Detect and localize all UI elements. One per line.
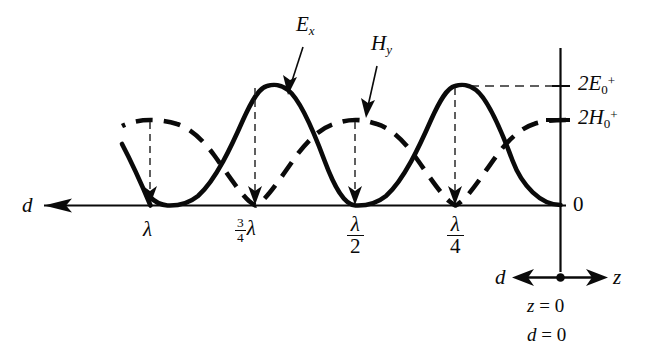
- leader-arrows: [283, 47, 377, 118]
- horizontal-axis: [44, 199, 566, 213]
- e-field-label-subscript: x: [309, 23, 315, 38]
- d-note-value: 0: [557, 324, 567, 345]
- z-equals-zero-note: z = 0: [527, 296, 564, 315]
- three-quarter-denominator: 4: [235, 230, 246, 245]
- h-max-symbol: H: [589, 105, 604, 129]
- tick-label-quarter-lambda: λ 4: [447, 214, 464, 258]
- direction-left-label: d: [495, 267, 506, 288]
- quarter-lambda-numerator: λ: [447, 214, 464, 235]
- half-lambda-numerator: λ: [347, 214, 364, 235]
- z-note-value: 0: [555, 295, 565, 316]
- quarter-lambda-fraction: λ 4: [447, 214, 464, 258]
- d-equals-zero-note: d = 0: [527, 325, 566, 344]
- three-quarter-fraction: 3 4: [235, 216, 246, 244]
- tick-label-three-quarter-lambda: 3 4 λ: [235, 216, 256, 244]
- e-field-path-left-stub: [122, 144, 151, 206]
- h-label-leader-arrowhead: [361, 98, 375, 118]
- e-field-label-symbol: E: [296, 12, 309, 36]
- tick-label-lambda-text: λ: [143, 217, 152, 241]
- e-label-leader-line: [291, 47, 303, 84]
- three-quarter-lambda-symbol: λ: [247, 216, 256, 240]
- h-field-label-subscript: y: [386, 42, 392, 57]
- e-field-label: Ex: [296, 14, 315, 37]
- d-note-op: =: [537, 324, 557, 345]
- half-lambda-denominator: 2: [347, 235, 364, 257]
- h-field-label-symbol: H: [371, 31, 386, 55]
- origin-dot: [556, 273, 565, 282]
- h-label-leader-line: [368, 66, 377, 106]
- d-axis-label: d: [22, 195, 33, 216]
- tick-label-half-lambda: λ 2: [347, 214, 364, 258]
- e-max-superscript: +: [608, 73, 615, 88]
- standing-wave-figure: z) ============ --> d Ex Hy 2E0+ 2H0+ 0 …: [0, 0, 649, 354]
- quarter-lambda-denominator: 4: [447, 235, 464, 257]
- z-note-op: =: [534, 295, 554, 316]
- h-max-superscript: +: [610, 107, 617, 122]
- h-max-value-label: 2H0+: [578, 107, 618, 130]
- direction-right-label: z: [613, 267, 621, 288]
- e-max-symbol: E: [589, 71, 602, 95]
- origin-zero-label: 0: [573, 194, 584, 215]
- e-max-value-label: 2E0+: [578, 73, 615, 96]
- h-field-label: Hy: [371, 33, 392, 56]
- h-max-prefix: 2: [578, 105, 589, 129]
- e-field-curve: [122, 85, 561, 206]
- e-max-prefix: 2: [578, 71, 589, 95]
- tick-label-lambda: λ: [143, 219, 152, 240]
- level-reference-lines: [455, 86, 570, 120]
- d-note-var: d: [527, 324, 537, 345]
- three-quarter-numerator: 3: [235, 216, 246, 230]
- half-lambda-fraction: λ 2: [347, 214, 364, 258]
